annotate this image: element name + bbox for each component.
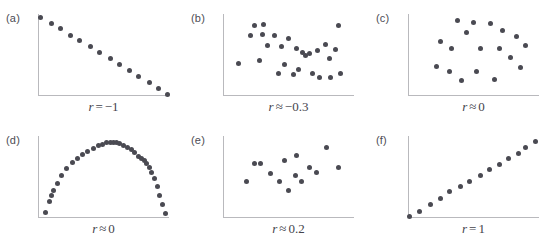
data-point <box>315 48 320 53</box>
caption-value-b: −0.3 <box>285 99 309 114</box>
data-point <box>236 61 241 66</box>
caption-symbol-b: r <box>269 99 274 114</box>
data-point <box>282 158 287 163</box>
data-point <box>108 56 113 61</box>
data-point <box>474 69 479 74</box>
plot-area-b <box>223 14 354 96</box>
panel-caption-d: r≈0 <box>38 221 169 237</box>
data-point <box>152 176 157 181</box>
data-point <box>277 179 282 184</box>
data-point <box>156 86 161 91</box>
data-point <box>157 193 162 198</box>
caption-relation-e: ≈ <box>277 221 288 236</box>
data-point <box>516 151 521 156</box>
panel-caption-b: r≈−0.3 <box>223 99 354 115</box>
data-point <box>260 32 265 37</box>
caption-relation-f: = <box>467 221 478 236</box>
data-points-c <box>408 14 539 96</box>
panel-caption-f: r=1 <box>408 221 539 237</box>
data-point <box>77 38 82 43</box>
data-point <box>163 211 168 216</box>
data-point <box>323 42 328 47</box>
data-point <box>514 34 519 39</box>
data-point <box>478 173 483 178</box>
plot-area-a <box>38 14 169 96</box>
panel-tag-e: (e) <box>191 134 205 146</box>
data-point <box>314 170 319 175</box>
data-point <box>296 67 301 72</box>
scatter-panel-a: (a)r=−1 <box>0 0 185 122</box>
data-point <box>155 184 160 189</box>
data-points-b <box>223 14 354 96</box>
data-point <box>149 170 154 175</box>
data-point <box>294 46 299 51</box>
data-point <box>282 62 287 67</box>
data-point <box>38 15 43 20</box>
data-point <box>64 166 69 171</box>
data-point <box>97 50 102 55</box>
data-point <box>258 161 263 166</box>
data-point <box>160 202 165 207</box>
caption-value-d: 0 <box>108 221 115 236</box>
data-point <box>434 64 439 69</box>
data-point <box>252 161 257 166</box>
data-point <box>51 188 56 193</box>
data-point <box>500 28 505 33</box>
data-point <box>488 21 493 26</box>
data-point <box>165 92 170 97</box>
data-point <box>272 33 277 38</box>
data-point <box>147 80 152 85</box>
data-points-a <box>38 14 169 96</box>
data-points-e <box>223 136 354 218</box>
data-point <box>447 69 452 74</box>
data-point <box>508 55 513 60</box>
data-point <box>478 46 483 51</box>
data-point <box>523 43 528 48</box>
data-point <box>492 77 497 82</box>
caption-relation-c: ≈ <box>467 99 478 114</box>
scatter-panel-f: (f)r=1 <box>370 122 554 244</box>
caption-value-e: 0.2 <box>288 221 304 236</box>
data-point <box>497 46 502 51</box>
data-point <box>75 156 80 161</box>
data-point <box>91 146 96 151</box>
data-point <box>533 139 538 144</box>
data-point <box>265 43 270 48</box>
caption-relation-b: ≈ <box>274 99 285 114</box>
scatter-panel-b: (b)r≈−0.3 <box>185 0 370 122</box>
data-point <box>80 152 85 157</box>
data-point <box>428 202 433 207</box>
scatter-panel-e: (e)r≈0.2 <box>185 122 370 244</box>
data-point <box>291 72 296 77</box>
data-point <box>268 171 273 176</box>
data-point <box>127 68 132 73</box>
data-point <box>147 165 152 170</box>
data-point <box>257 58 262 63</box>
data-point <box>438 39 443 44</box>
data-point <box>336 165 341 170</box>
data-point <box>117 62 122 67</box>
data-point <box>286 36 291 41</box>
panel-caption-a: r=−1 <box>38 99 169 115</box>
data-point <box>324 145 329 150</box>
panel-tag-c: (c) <box>376 12 389 24</box>
data-point <box>328 75 333 80</box>
caption-relation-d: ≈ <box>97 221 108 236</box>
data-point <box>506 156 511 161</box>
data-point <box>55 181 60 186</box>
data-point <box>455 18 460 23</box>
data-point <box>497 162 502 167</box>
data-point <box>58 26 63 31</box>
data-point <box>333 47 338 52</box>
plot-area-f <box>408 136 539 218</box>
data-point <box>307 165 312 170</box>
data-point <box>447 189 452 194</box>
data-point <box>49 21 54 26</box>
caption-relation-a: = <box>93 99 104 114</box>
data-point <box>276 71 281 76</box>
data-point <box>459 78 464 83</box>
data-point <box>307 51 312 56</box>
data-point <box>458 184 463 189</box>
data-point <box>59 173 64 178</box>
data-point <box>85 149 90 154</box>
